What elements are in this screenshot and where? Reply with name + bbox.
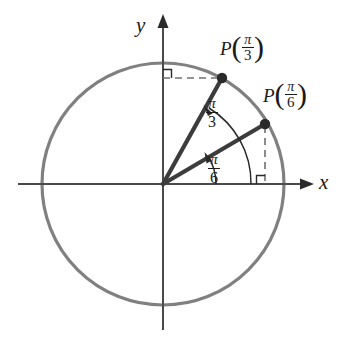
point-label-close-paren: ) [297,82,307,107]
angle-label-numerator: π [206,96,218,112]
x-axis-label: x [319,172,328,193]
point-label-denominator: 6 [285,95,297,110]
figure-canvas [0,0,345,346]
point-label-numerator: π [242,33,253,47]
point-label-fraction: π 6 [285,80,297,110]
angle-label-denominator: 3 [206,113,218,130]
point-dot-p-pi-3 [217,73,227,83]
point-label-close-paren: ) [254,35,264,60]
right-angle-marker-top-left [163,70,172,79]
point-label-fraction: π 3 [242,33,254,63]
angle-label-pi-6: π 6 [208,152,220,186]
angle-label-denominator: 6 [208,169,220,186]
point-label-open-paren: ( [232,35,242,60]
y-axis-label: y [136,15,145,36]
point-dot-p-pi-6 [260,119,270,129]
point-label-p-pi-3: P ( π 3 ) [220,33,264,63]
point-label-denominator: 3 [242,48,254,63]
angle-label-numerator: π [208,152,220,168]
x-axis-arrowhead [300,179,314,190]
point-label-numerator: π [285,80,296,94]
unit-circle-figure: y x P ( π 3 ) P ( π 6 ) π 3 π 6 [0,0,345,346]
point-label-p-char: P [220,39,232,58]
y-axis-arrowhead [158,14,169,28]
point-label-p-char: P [263,86,275,105]
point-label-p-pi-6: P ( π 6 ) [263,80,307,110]
point-label-open-paren: ( [275,82,285,107]
right-angle-marker-bottom-right [257,176,266,185]
angle-label-pi-3: π 3 [206,96,218,130]
